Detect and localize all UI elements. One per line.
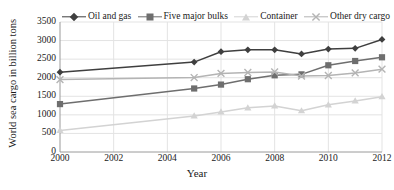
x-tick-2012: 2012 xyxy=(373,154,392,164)
y-tick-3000: 3000 xyxy=(37,36,56,46)
y-tick-500: 500 xyxy=(42,129,56,139)
x-tick-2004: 2004 xyxy=(158,154,177,164)
y-tick-2500: 2500 xyxy=(37,54,56,64)
x-tick-2000: 2000 xyxy=(51,154,70,164)
y-tick-2000: 2000 xyxy=(37,73,56,83)
y-tick-3500: 3500 xyxy=(37,17,56,27)
x-tick-2002: 2002 xyxy=(104,154,123,164)
y-tick-1500: 1500 xyxy=(37,92,56,102)
x-tick-2006: 2006 xyxy=(212,154,231,164)
y-axis-title: World sea cargo in billion tons xyxy=(8,7,19,159)
sea-cargo-line-chart: Oil and gas Five major bulks Container xyxy=(0,0,394,190)
x-tick-2008: 2008 xyxy=(265,154,284,164)
x-tick-2010: 2010 xyxy=(319,154,338,164)
y-tick-1000: 1000 xyxy=(37,110,56,120)
x-axis-title: Year xyxy=(0,168,394,179)
